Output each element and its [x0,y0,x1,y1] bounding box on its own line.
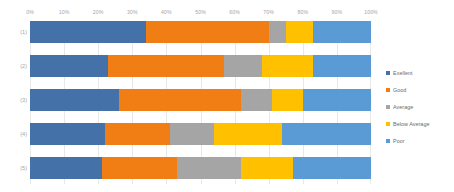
bar-segment [30,89,119,111]
legend-item[interactable]: Below Average [386,115,452,132]
bar-segment [30,123,105,145]
category-label: (2) [0,55,27,77]
bar-segment [119,89,242,111]
category-label: (5) [0,157,27,179]
bar-segment [30,21,146,43]
legend-item[interactable]: Average [386,98,452,115]
bar-segment [241,89,272,111]
bar-row [30,21,371,43]
bar-segment [146,21,269,43]
category-label: (3) [0,89,27,111]
x-tick-label: 90% [332,8,343,16]
legend-swatch-icon [386,139,390,143]
bar-segment [105,123,170,145]
legend-label: Good [393,87,406,93]
bar-row [30,123,371,145]
legend-label: Poor [393,138,405,144]
x-tick-label: 0% [26,8,34,16]
x-tick-label: 60% [229,8,240,16]
bar-segment [262,55,313,77]
category-axis-labels: (1)(2)(3)(4)(5) [0,21,30,192]
legend-swatch-icon [386,122,390,126]
x-tick-label: 40% [161,8,172,16]
bar-segment [303,89,371,111]
bar-segment [269,21,286,43]
bar-segment [214,123,282,145]
bar-row [30,55,371,77]
legend-swatch-icon [386,71,390,75]
bar-segment [272,89,303,111]
legend-label: Exellent [393,70,413,76]
legend-swatch-icon [386,105,390,109]
x-tick-label: 50% [195,8,206,16]
stacked-bar-chart: (1)(2)(3)(4)(5) 0%10%20%30%40%50%60%70%8… [0,0,454,192]
bar-segment [241,157,292,179]
bar-segment [170,123,214,145]
legend-swatch-icon [386,88,390,92]
legend-label: Below Average [393,121,430,127]
bar-segment [108,55,224,77]
bar-segment [102,157,177,179]
bar-segment [313,21,371,43]
bar-row [30,89,371,111]
bar-segment [282,123,371,145]
bar-segment [313,55,371,77]
category-label: (1) [0,21,27,43]
legend-item[interactable]: Good [386,81,452,98]
x-tick-label: 20% [93,8,104,16]
legend-label: Average [393,104,413,110]
bar-segment [30,157,102,179]
plot-area: 0%10%20%30%40%50%60%70%80%90%100% [30,8,371,184]
x-tick-label: 100% [364,8,378,16]
value-axis: 0%10%20%30%40%50%60%70%80%90%100% [30,8,371,21]
bars-layer [30,21,371,184]
chart-legend: ExellentGoodAverageBelow AveragePoor [386,64,452,149]
bar-segment [224,55,262,77]
x-tick-label: 30% [127,8,138,16]
bar-row [30,157,371,179]
x-tick-label: 70% [263,8,274,16]
x-tick-label: 10% [59,8,70,16]
bar-segment [177,157,242,179]
legend-item[interactable]: Exellent [386,64,452,81]
bar-segment [293,157,371,179]
category-label: (4) [0,123,27,145]
legend-item[interactable]: Poor [386,132,452,149]
bar-segment [30,55,108,77]
bar-segment [286,21,313,43]
x-tick-label: 80% [297,8,308,16]
